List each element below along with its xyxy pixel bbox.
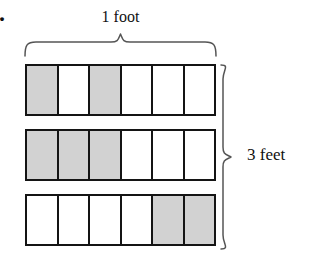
unshaded-cell	[185, 131, 215, 179]
right-brace-icon	[219, 62, 243, 255]
unshaded-cell	[122, 131, 154, 179]
table-row	[25, 129, 216, 181]
unshaded-cell	[90, 196, 122, 244]
shaded-cell	[90, 66, 122, 114]
problem-number: 0.	[0, 1, 5, 25]
height-dimension-label: 3 feet	[247, 145, 285, 165]
table-row	[25, 194, 216, 246]
width-dimension-label: 1 foot	[25, 7, 216, 26]
unshaded-cell	[185, 66, 215, 114]
shaded-cell	[59, 131, 91, 179]
area-model-figure: 0. 1 foot 3 feet	[0, 0, 311, 255]
unshaded-cell	[153, 131, 185, 179]
unshaded-cell	[27, 196, 59, 244]
unshaded-cell	[59, 196, 91, 244]
bar-grid	[25, 64, 216, 246]
unshaded-cell	[59, 66, 91, 114]
unshaded-cell	[153, 66, 185, 114]
unshaded-cell	[122, 66, 154, 114]
shaded-cell	[27, 66, 59, 114]
shaded-cell	[153, 196, 185, 244]
shaded-cell	[185, 196, 215, 244]
unshaded-cell	[122, 196, 154, 244]
table-row	[25, 64, 216, 116]
top-brace-icon	[22, 33, 219, 61]
shaded-cell	[27, 131, 59, 179]
shaded-cell	[90, 131, 122, 179]
